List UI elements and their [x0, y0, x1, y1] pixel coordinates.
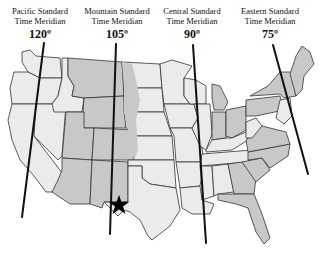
state-kansas [134, 136, 174, 160]
state-new-york [250, 72, 296, 98]
us-map [0, 0, 324, 255]
state-florida [218, 194, 270, 244]
time-zone-map: Pacific Standard Time Meridian 120º Moun… [0, 0, 324, 255]
state-arizona [52, 158, 92, 204]
state-new-mexico [90, 160, 128, 208]
state-wyoming [82, 96, 126, 128]
state-iowa [164, 104, 198, 128]
state-indiana [212, 112, 226, 140]
state-new-england [290, 46, 314, 96]
state-michigan [212, 84, 228, 110]
